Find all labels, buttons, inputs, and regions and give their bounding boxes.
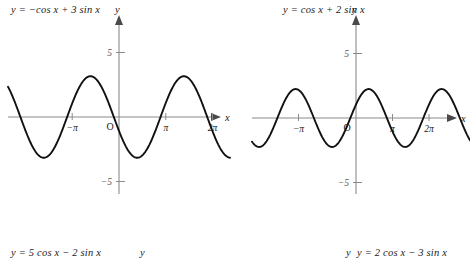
x-tick-label-2pi-right: 2π [424,124,434,134]
x-tick-label-pi-left: π [163,123,168,133]
right-graph: −π π 2π 5 −5 O x [252,14,470,204]
y-tick-label-5-right: 5 [344,49,349,59]
y-axis-arrow-left [115,15,123,25]
figure-page: y = −cos x + 3 sin x y y y = cos x + 2 s… [0,0,470,265]
equation-bottom-right: y = 2 cos x − 3 sin x [357,247,447,258]
origin-label-left: O [106,121,113,132]
x-tick-label-neg-pi-right: −π [293,124,304,134]
y-axis-arrow-right [352,15,360,25]
left-graph: −π π 2π 5 −5 O x [8,14,230,204]
y-axis-label-bottom-right: y [346,247,351,258]
x-axis-arrow-right [447,114,457,122]
equation-bottom-left: y = 5 cos x − 2 sin x [11,247,101,258]
y-tick-label-5-left: 5 [107,48,112,58]
x-axis-name-left: x [224,112,230,123]
y-tick-label-neg5-right: −5 [338,178,349,188]
x-tick-label-neg-pi-left: −π [67,123,78,133]
y-axis-label-bottom-left: y [140,247,145,258]
y-tick-label-neg5-left: −5 [101,177,112,187]
